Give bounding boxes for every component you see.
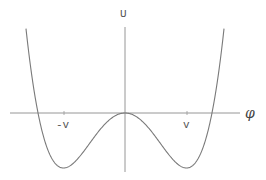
tick-label-pos-v: v (183, 119, 190, 131)
y-axis-label: U (120, 8, 127, 20)
x-axis-label: φ (245, 105, 255, 121)
tick-label-neg-v: -v (56, 119, 70, 131)
potential-diagram: U φ -v v (0, 0, 266, 180)
